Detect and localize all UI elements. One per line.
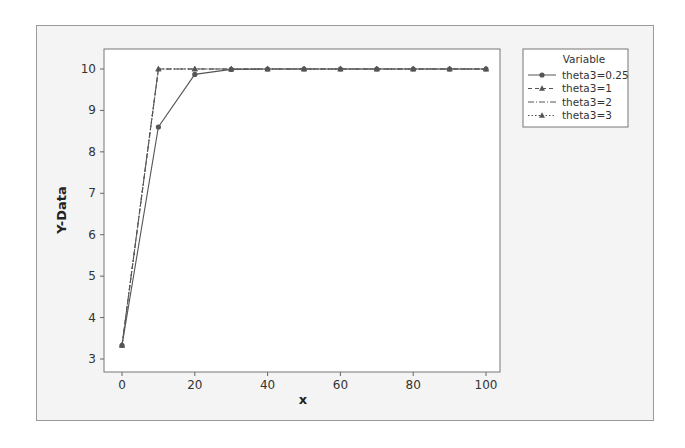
- data-point-marker: [301, 66, 306, 71]
- x-tick-label: 0: [118, 378, 126, 392]
- y-tick-label: 4: [88, 311, 96, 325]
- data-point-marker: [411, 66, 416, 71]
- data-point-marker: [229, 67, 234, 72]
- plot-area: [104, 49, 500, 372]
- data-point-marker: [265, 66, 270, 71]
- x-axis: 020406080100: [118, 372, 497, 392]
- x-tick-label: 60: [333, 378, 348, 392]
- y-tick-label: 6: [88, 228, 96, 242]
- legend-marker: [539, 72, 544, 77]
- y-tick-label: 7: [88, 186, 96, 200]
- x-tick-label: 80: [406, 378, 421, 392]
- y-tick-label: 5: [88, 269, 96, 283]
- data-point-marker: [483, 66, 488, 71]
- legend-label: theta3=0.25: [562, 69, 629, 81]
- x-tick-label: 100: [475, 378, 498, 392]
- x-tick-label: 40: [260, 378, 275, 392]
- data-point-marker: [156, 124, 161, 129]
- data-point-marker: [338, 66, 343, 71]
- x-axis-title: x: [299, 392, 308, 407]
- data-point-marker: [447, 66, 452, 71]
- y-axis: 345678910: [81, 62, 104, 366]
- legend: Variable theta3=0.25theta3=1theta3=2thet…: [523, 49, 629, 127]
- line-chart: 345678910 020406080100 Y-Data x Variable…: [0, 0, 685, 448]
- y-tick-label: 3: [88, 352, 96, 366]
- x-tick-label: 20: [187, 378, 202, 392]
- legend-label: theta3=2: [562, 96, 612, 108]
- data-point-marker: [374, 66, 379, 71]
- legend-label: theta3=1: [562, 82, 612, 94]
- legend-label: theta3=3: [562, 109, 612, 121]
- data-point-marker: [192, 72, 197, 77]
- data-point-marker: [119, 343, 124, 348]
- y-tick-label: 9: [88, 103, 96, 117]
- y-tick-label: 10: [81, 62, 96, 76]
- y-tick-label: 8: [88, 145, 96, 159]
- legend-title: Variable: [563, 53, 606, 65]
- y-axis-title: Y-Data: [54, 186, 69, 234]
